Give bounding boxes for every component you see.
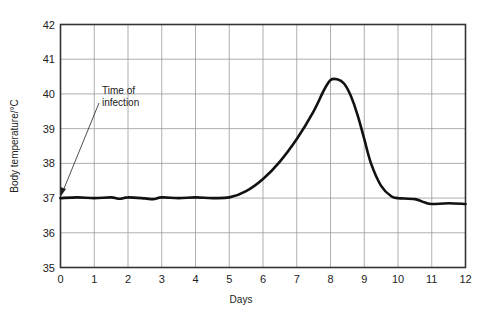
x-tick-label: 0 (57, 273, 63, 285)
x-tick-label: 9 (361, 273, 367, 285)
infection-annotation: Time of infection (61, 85, 140, 196)
x-tick-label: 2 (125, 273, 131, 285)
y-tick-label: 35 (43, 262, 55, 274)
y-axis-label: Body temperature/°C (9, 99, 20, 193)
grid-lines (61, 25, 466, 268)
y-tick-label: 39 (43, 123, 55, 135)
x-tick-label: 1 (91, 273, 97, 285)
x-tick-label: 5 (226, 273, 232, 285)
annotation-line2: infection (102, 97, 139, 108)
x-tick-label: 11 (426, 273, 437, 285)
x-tick-label: 7 (294, 273, 300, 285)
x-tick-label: 4 (192, 273, 198, 285)
annotation-line1: Time of (102, 85, 135, 96)
y-tick-label: 37 (43, 192, 55, 204)
x-axis-label: Days (230, 294, 253, 305)
y-tick-label: 36 (43, 227, 55, 239)
arrow-head-icon (61, 187, 67, 196)
fever-line-chart: 3536373839404142 0123456789101112 Days B… (0, 0, 496, 323)
x-tick-label: 3 (159, 273, 165, 285)
y-axis-ticks: 3536373839404142 (43, 19, 55, 274)
x-tick-label: 6 (260, 273, 266, 285)
x-tick-label: 12 (459, 273, 471, 285)
y-tick-label: 41 (43, 53, 55, 65)
y-tick-label: 40 (43, 88, 55, 100)
x-tick-label: 8 (327, 273, 333, 285)
y-tick-label: 42 (43, 19, 55, 31)
x-tick-label: 10 (392, 273, 404, 285)
annotation-arrow-line (63, 103, 99, 191)
y-tick-label: 38 (43, 157, 55, 169)
x-axis-ticks: 0123456789101112 (57, 273, 471, 285)
